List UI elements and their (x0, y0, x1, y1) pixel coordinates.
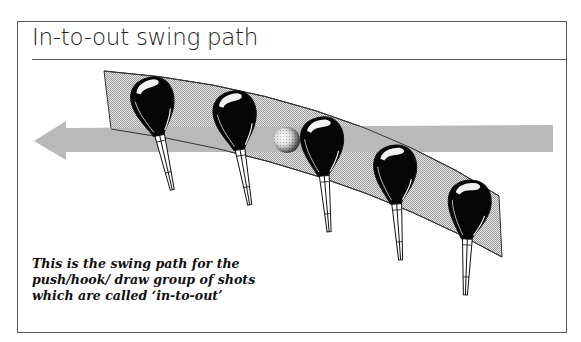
golf-ball-icon (274, 127, 300, 153)
caption-text: This is the swing path for the push/hook… (32, 256, 257, 304)
